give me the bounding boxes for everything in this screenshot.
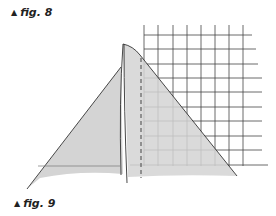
figure-9-label: fig. 9	[23, 197, 55, 210]
triangle-marker-icon: ▲	[14, 199, 20, 208]
pattern-diagram	[0, 0, 276, 216]
figure-9-caption: ▲ fig. 9	[14, 197, 55, 210]
